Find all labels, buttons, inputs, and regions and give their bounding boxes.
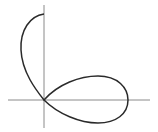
curve-upper-arc	[21, 14, 44, 100]
plot-canvas	[0, 0, 158, 132]
curve-diagram	[0, 0, 158, 132]
